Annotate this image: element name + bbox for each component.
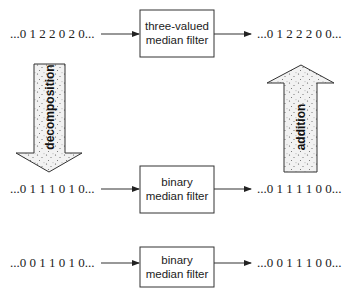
input-sequence-2: ...0 1 1 1 0 1 0...: [10, 181, 95, 196]
filter-label-1-line1: three-valued: [145, 20, 209, 32]
diagram-canvas: ...0 1 2 2 0 2 0... three-valued median …: [0, 0, 349, 300]
filter-label-3-line1: binary: [161, 254, 193, 266]
row-three-valued: ...0 1 2 2 0 2 0... three-valued median …: [10, 10, 342, 57]
input-sequence-1: ...0 1 2 2 0 2 0...: [10, 26, 95, 41]
addition-label: addition: [294, 104, 308, 151]
output-sequence-1: ...0 1 2 2 2 0 0...: [257, 26, 342, 41]
filter-label-2-line2: median filter: [146, 190, 209, 202]
input-sequence-3: ...0 0 1 1 0 1 0...: [10, 255, 95, 270]
addition-arrow: addition: [267, 65, 334, 172]
row-binary-1: ...0 1 1 1 0 1 0... binary median filter…: [10, 166, 342, 213]
output-sequence-2: ...0 1 1 1 1 0 0...: [257, 181, 342, 196]
binary-median-filter-box-2: [140, 247, 214, 287]
decomposition-arrow: decomposition: [16, 64, 82, 172]
output-sequence-3: ...0 0 1 1 1 0 0...: [257, 255, 342, 270]
decomposition-label: decomposition: [43, 64, 57, 149]
row-binary-2: ...0 0 1 1 0 1 0... binary median filter…: [10, 247, 342, 287]
filter-label-3-line2: median filter: [146, 268, 209, 280]
filter-label-2-line1: binary: [161, 176, 193, 188]
filter-label-1-line2: median filter: [146, 34, 209, 46]
